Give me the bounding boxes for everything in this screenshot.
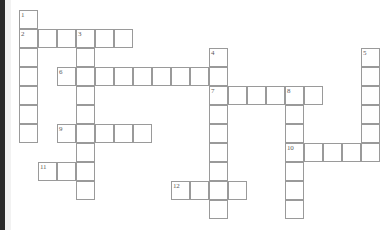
crossword-cell[interactable] <box>228 86 247 105</box>
crossword-cell[interactable] <box>95 29 114 48</box>
crossword-cell[interactable] <box>209 105 228 124</box>
cell-number-label: 10 <box>287 144 294 152</box>
crossword-cell[interactable] <box>76 67 95 86</box>
crossword-cell[interactable] <box>304 143 323 162</box>
crossword-cell[interactable] <box>361 105 380 124</box>
crossword-cell[interactable] <box>209 67 228 86</box>
crossword-cell[interactable] <box>152 67 171 86</box>
crossword-cell-numbered[interactable]: 4 <box>209 48 228 67</box>
crossword-cell[interactable] <box>285 162 304 181</box>
crossword-cell[interactable] <box>76 162 95 181</box>
crossword-cell[interactable] <box>76 181 95 200</box>
crossword-cell[interactable] <box>19 48 38 67</box>
crossword-cell[interactable] <box>57 29 76 48</box>
crossword-cell[interactable] <box>228 181 247 200</box>
cell-number-label: 1 <box>21 11 24 19</box>
crossword-cell[interactable] <box>190 67 209 86</box>
crossword-cell-numbered[interactable]: 6 <box>57 67 76 86</box>
cell-number-label: 12 <box>173 182 180 190</box>
crossword-cell[interactable] <box>285 181 304 200</box>
crossword-cell[interactable] <box>209 200 228 219</box>
crossword-cell-numbered[interactable]: 5 <box>361 48 380 67</box>
cell-number-label: 4 <box>211 49 214 57</box>
crossword-cell[interactable] <box>76 124 95 143</box>
crossword-cell[interactable] <box>209 162 228 181</box>
crossword-cell[interactable] <box>361 124 380 143</box>
crossword-cell-numbered[interactable]: 10 <box>285 143 304 162</box>
crossword-cell-numbered[interactable]: 9 <box>57 124 76 143</box>
crossword-cell[interactable] <box>361 143 380 162</box>
cell-number-label: 8 <box>287 87 290 95</box>
crossword-cell[interactable] <box>266 86 285 105</box>
crossword-cell[interactable] <box>76 48 95 67</box>
crossword-cell[interactable] <box>76 105 95 124</box>
crossword-cell-numbered[interactable]: 12 <box>171 181 190 200</box>
crossword-cell[interactable] <box>19 67 38 86</box>
crossword-cell[interactable] <box>342 143 361 162</box>
cell-number-label: 7 <box>211 87 214 95</box>
cell-number-label: 11 <box>40 163 46 171</box>
crossword-cell-numbered[interactable]: 7 <box>209 86 228 105</box>
crossword-cell-numbered[interactable]: 2 <box>19 29 38 48</box>
crossword-cell[interactable] <box>19 105 38 124</box>
cell-number-label: 2 <box>21 30 24 38</box>
crossword-cell[interactable] <box>285 124 304 143</box>
cell-number-label: 5 <box>363 49 366 57</box>
crossword-cell-numbered[interactable]: 1 <box>19 10 38 29</box>
crossword-cell[interactable] <box>171 67 190 86</box>
crossword-cell[interactable] <box>323 143 342 162</box>
cell-number-label: 3 <box>78 30 81 38</box>
cell-number-label: 6 <box>59 68 62 76</box>
crossword-cell-numbered[interactable]: 3 <box>76 29 95 48</box>
crossword-cell[interactable] <box>361 67 380 86</box>
crossword-cell[interactable] <box>285 200 304 219</box>
crossword-cell[interactable] <box>133 124 152 143</box>
crossword-cell[interactable] <box>285 105 304 124</box>
crossword-cell[interactable] <box>114 67 133 86</box>
crossword-cell[interactable] <box>209 181 228 200</box>
crossword-cell[interactable] <box>209 143 228 162</box>
crossword-cell[interactable] <box>114 29 133 48</box>
crossword-cell[interactable] <box>38 29 57 48</box>
crossword-cell[interactable] <box>209 124 228 143</box>
crossword-cell[interactable] <box>247 86 266 105</box>
crossword-cell[interactable] <box>304 86 323 105</box>
crossword-cell[interactable] <box>133 67 152 86</box>
crossword-cell[interactable] <box>190 181 209 200</box>
crossword-cell[interactable] <box>76 86 95 105</box>
crossword-cell-numbered[interactable]: 8 <box>285 86 304 105</box>
crossword-cell[interactable] <box>19 86 38 105</box>
crossword-cell[interactable] <box>76 143 95 162</box>
crossword-cell[interactable] <box>57 162 76 181</box>
crossword-cell[interactable] <box>361 86 380 105</box>
crossword-cell[interactable] <box>114 124 133 143</box>
crossword-cell[interactable] <box>95 67 114 86</box>
cell-number-label: 9 <box>59 125 62 133</box>
crossword-cell[interactable] <box>95 124 114 143</box>
crossword-cell-numbered[interactable]: 11 <box>38 162 57 181</box>
crossword-cell[interactable] <box>19 124 38 143</box>
